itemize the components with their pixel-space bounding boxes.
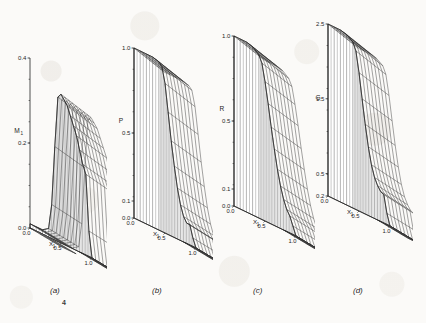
svg-text:0.0: 0.0 — [320, 198, 328, 204]
svg-text:0.0: 0.0 — [126, 220, 134, 226]
svg-text:0.4: 0.4 — [18, 55, 27, 61]
svg-text:1.0: 1.0 — [382, 228, 390, 234]
svg-text:P: P — [119, 117, 124, 124]
svg-text:0.0: 0.0 — [22, 230, 30, 236]
stray-ink-mark: 4 — [62, 299, 66, 306]
svg-text:1.0: 1.0 — [222, 33, 231, 39]
svg-text:0.0: 0.0 — [226, 208, 234, 214]
svg-text:M: M — [14, 127, 20, 134]
svg-text:2.5: 2.5 — [316, 21, 325, 27]
svg-text:0.5: 0.5 — [122, 130, 131, 136]
panel-caption-d: (d) — [353, 286, 363, 295]
surface-plot-c: 1.00.50.10.0R0.00.51.0X10.3X2 — [208, 0, 315, 323]
surface-plot-a: 0.40.20.0M10.00.51.0X10.3X2 — [0, 0, 107, 323]
surface-plot-d: 2.51.50.50.2G0.00.51.0X10.3X2 — [306, 0, 413, 323]
svg-text:1.0: 1.0 — [288, 238, 296, 244]
svg-text:1: 1 — [157, 234, 160, 239]
panel-caption-a: (a) — [50, 286, 60, 295]
plot-panel-c: 1.00.50.10.0R0.00.51.0X10.3X2 — [208, 0, 315, 323]
plot-panel-a: 0.40.20.0M10.00.51.0X10.3X2 — [0, 0, 107, 323]
plot-panel-b: 1.00.50.10.0P0.00.51.0X10.3X2 — [106, 0, 213, 323]
svg-text:0.2: 0.2 — [18, 140, 27, 146]
panel-caption-b: (b) — [152, 286, 162, 295]
svg-text:1.0: 1.0 — [188, 250, 196, 256]
svg-text:1: 1 — [53, 244, 56, 249]
svg-text:1: 1 — [21, 131, 24, 136]
plot-panel-d: 2.51.50.50.2G0.00.51.0X10.3X2 — [306, 0, 413, 323]
svg-text:1.0: 1.0 — [122, 45, 131, 51]
panel-caption-c: (c) — [253, 286, 262, 295]
svg-text:0.1: 0.1 — [222, 186, 231, 192]
svg-text:G: G — [315, 94, 320, 101]
svg-text:1: 1 — [351, 212, 354, 217]
svg-text:0.1: 0.1 — [122, 198, 131, 204]
surface-plot-b: 1.00.50.10.0P0.00.51.0X10.3X2 — [106, 0, 213, 323]
svg-text:1: 1 — [257, 222, 260, 227]
svg-text:0.5: 0.5 — [222, 118, 231, 124]
svg-text:R: R — [220, 105, 225, 112]
svg-text:1.0: 1.0 — [84, 260, 92, 266]
svg-text:0.5: 0.5 — [316, 171, 325, 177]
